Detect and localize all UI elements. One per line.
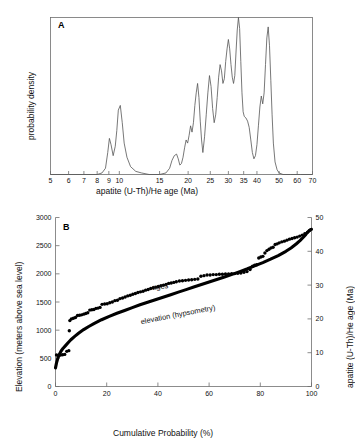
- panel-b-tickmarks: [56, 218, 312, 387]
- panel-b-plot: [0, 200, 353, 445]
- panel-b-ytick-left-1500: 1500: [22, 299, 52, 306]
- panel-b-y-axis-title-right: apatite (U-Th)/He age (Ma): [345, 286, 355, 388]
- ages-point: [248, 268, 251, 271]
- ages-point: [215, 273, 218, 276]
- panel-b-ytick-left-2500: 2500: [22, 242, 52, 249]
- ages-point: [187, 278, 190, 281]
- ages-point: [208, 273, 211, 276]
- ages-point: [178, 279, 181, 282]
- panel-a-xtick-15: 15: [150, 177, 170, 184]
- ages-point: [67, 349, 70, 352]
- panel-b-xtick-20: 20: [95, 390, 119, 397]
- ages-point: [199, 275, 202, 278]
- panel-a-letter: A: [58, 20, 65, 30]
- ages-point: [224, 272, 227, 275]
- ages-point: [255, 263, 258, 266]
- ages-point: [175, 280, 178, 283]
- panel-b-ytick-right-50: 50: [316, 214, 338, 221]
- panel-b-xtick-100: 100: [300, 390, 324, 397]
- ages-point: [230, 272, 233, 275]
- panel-a: A probability density apatite (U-Th)/He …: [0, 0, 353, 200]
- panel-a-xtick-50: 50: [269, 177, 289, 184]
- ages-point: [190, 278, 193, 281]
- panel-a-xtick-40: 40: [247, 177, 267, 184]
- panel-a-y-axis-title: probability density: [26, 72, 36, 140]
- panel-b-ytick-right-0: 0: [316, 383, 338, 390]
- ages-point: [236, 272, 239, 275]
- panel-a-x-axis-title: apatite (U-Th)/He age (Ma): [96, 186, 198, 196]
- ages-point: [181, 279, 184, 282]
- ages-point: [261, 255, 264, 258]
- ages-point: [196, 277, 199, 280]
- ages-point: [184, 279, 187, 282]
- panel-b-xtick-40: 40: [146, 390, 170, 397]
- ages-data-points: [55, 229, 312, 357]
- ages-point: [233, 272, 236, 275]
- panel-b-xtick-60: 60: [197, 390, 221, 397]
- ages-point: [239, 271, 242, 274]
- ages-point: [242, 271, 245, 274]
- ages-point: [271, 246, 274, 249]
- panel-b-ytick-left-1000: 1000: [22, 327, 52, 334]
- panel-b-ytick-right-20: 20: [316, 315, 338, 322]
- panel-a-xtick-5: 5: [41, 177, 61, 184]
- ages-point: [68, 329, 71, 332]
- panel-a-xtick-20: 20: [178, 177, 198, 184]
- panel-b-letter: B: [63, 222, 70, 232]
- ages-point: [218, 273, 221, 276]
- panel-b-x-axis-title: Cumulative Probability (%): [113, 428, 213, 438]
- panel-b: B Elevation (meters above sea level) apa…: [0, 200, 353, 445]
- panel-a-plot: [0, 0, 353, 200]
- ages-point: [221, 273, 224, 276]
- panel-b-xtick-0: 0: [44, 390, 68, 397]
- ages-point: [212, 273, 215, 276]
- ages-point: [205, 273, 208, 276]
- ages-point: [86, 311, 89, 314]
- ages-point: [245, 270, 248, 273]
- panel-a-xtick-70: 70: [303, 177, 323, 184]
- panel-b-ytick-right-10: 10: [316, 349, 338, 356]
- panel-b-ytick-left-500: 500: [22, 355, 52, 362]
- ages-point: [202, 274, 205, 277]
- probability-density-curve: [51, 18, 313, 175]
- ages-point: [63, 353, 66, 356]
- panel-a-tickmarks: [51, 171, 313, 175]
- panel-a-xtick-25: 25: [200, 177, 220, 184]
- panel-a-xtick-10: 10: [109, 177, 129, 184]
- ages-point: [193, 278, 196, 281]
- ages-point: [227, 272, 230, 275]
- panel-b-ytick-right-40: 40: [316, 248, 338, 255]
- panel-b-ytick-left-3000: 3000: [22, 214, 52, 221]
- ages-point: [98, 306, 101, 309]
- ages-point: [308, 229, 311, 232]
- panel-b-ytick-left-2000: 2000: [22, 270, 52, 277]
- elevation-hypsometry-curve: [56, 229, 312, 368]
- panel-b-ytick-right-30: 30: [316, 282, 338, 289]
- panel-b-xtick-80: 80: [248, 390, 272, 397]
- panel-b-ytick-left-0: 0: [22, 383, 52, 390]
